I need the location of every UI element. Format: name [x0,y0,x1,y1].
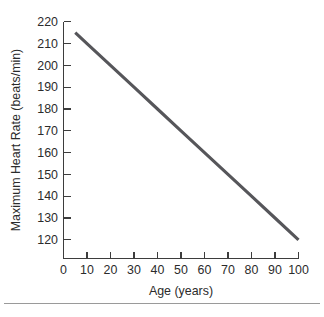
x-tick-label-30: 30 [127,263,141,277]
x-axis-title: Age (years) [149,284,213,298]
x-tick-label-40: 40 [151,263,165,277]
y-tick-label-130: 130 [37,211,58,225]
y-axis-title: Maximum Heart Rate (beats/min) [9,49,23,231]
y-tick-label-210: 210 [37,37,58,51]
y-tick-label-200: 200 [37,59,58,73]
x-tick-label-60: 60 [198,263,212,277]
x-tick-labels: 0 10 20 30 40 50 60 70 80 90 100 [60,263,309,277]
y-tick-labels: 220 210 200 190 180 170 160 150 140 130 … [37,15,58,247]
x-tick-label-70: 70 [221,263,235,277]
y-tick-label-170: 170 [37,124,58,138]
x-tick-label-80: 80 [245,263,259,277]
y-tick-label-190: 190 [37,80,58,94]
y-tick-label-120: 120 [37,233,58,247]
figure-container: 220 210 200 190 180 170 160 150 140 130 … [0,0,324,317]
data-line-maximum-heart-rate [75,33,298,240]
y-tick-label-150: 150 [37,168,58,182]
x-tick-label-100: 100 [288,263,309,277]
y-tick-marks [64,22,71,240]
y-tick-label-180: 180 [37,102,58,116]
max-heart-rate-line-chart: 220 210 200 190 180 170 160 150 140 130 … [0,0,324,317]
x-tick-label-0: 0 [60,263,67,277]
y-tick-label-220: 220 [37,15,58,29]
y-tick-label-140: 140 [37,189,58,203]
x-tick-label-90: 90 [268,263,282,277]
x-tick-marks [64,252,299,259]
x-tick-label-10: 10 [80,263,94,277]
axes-group [64,22,299,259]
x-tick-label-50: 50 [174,263,188,277]
y-tick-label-160: 160 [37,146,58,160]
x-tick-label-20: 20 [104,263,118,277]
